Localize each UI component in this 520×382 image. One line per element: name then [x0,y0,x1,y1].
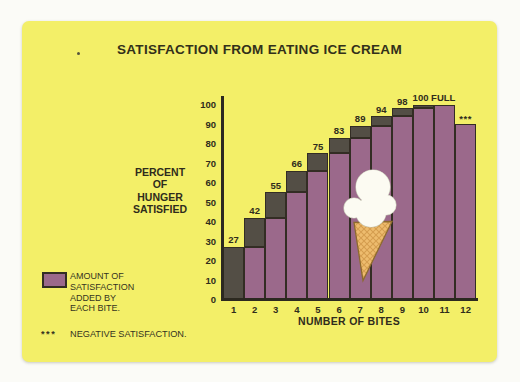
bar-column-10-increment [413,105,434,109]
slide-stage: SATISFACTION FROM EATING ICE CREAM PERCE… [0,0,520,382]
y-tick-label-0: 0 [172,293,216,306]
y-tick-label-100: 100 [172,98,216,111]
bar-column-4-purple [286,192,307,299]
y-tick-label-70: 70 [172,157,216,170]
x-tick-label-4: 4 [286,304,307,316]
y-tick-label-80: 80 [172,137,216,150]
bar-column-1-increment [223,247,244,300]
x-axis-line [221,298,478,301]
bar-column-2-increment [244,218,265,247]
x-tick-label-8: 8 [371,304,392,316]
bar-value-label-12: *** [431,112,501,125]
chart-title: SATISFACTION FROM EATING ICE CREAM [22,42,497,57]
x-tick-label-12: 12 [455,304,476,316]
bar-column-3-purple [265,218,286,300]
x-axis-title: NUMBER OF BITES [249,315,449,327]
bar-column-7-increment [350,126,371,138]
bar-column-8-increment [371,116,392,126]
y-tick-label-20: 20 [172,254,216,267]
legend-label-line: EACH BITE. [70,303,134,314]
asterisks-icon: *** [41,329,70,339]
bar-column-2-purple [244,247,265,300]
x-tick-label-6: 6 [329,304,350,316]
y-tick-label-90: 90 [172,118,216,131]
legend-label-line: AMOUNT OF [70,271,134,282]
x-tick-label-9: 9 [392,304,413,316]
bar-column-3-increment [265,192,286,217]
y-axis-line [221,96,224,301]
negative-satisfaction-footnote: *** NEGATIVE SATISFACTION. [41,329,187,339]
x-tick-label-10: 10 [413,304,434,316]
y-tick-label-50: 50 [172,196,216,209]
bar-column-10-purple [413,108,434,299]
bar-column-6-increment [329,138,350,154]
x-tick-label-11: 11 [434,304,455,316]
bar-column-5-purple [307,171,328,300]
bar-value-label-10: 100 FULL [399,91,469,104]
legend-label-line: SATISFACTION [70,282,134,293]
x-tick-label-3: 3 [265,304,286,316]
ice-cream-scoop-icon [344,170,396,227]
legend-label-line: ADDED BY [70,293,134,304]
bar-column-11-purple [434,105,455,300]
bar-column-5-increment [307,153,328,171]
y-tick-label-40: 40 [172,215,216,228]
ice-cream-cone-illustration [340,163,398,285]
legend-label: AMOUNT OF SATISFACTION ADDED BY EACH BIT… [70,271,134,314]
x-tick-label-1: 1 [223,304,244,316]
bar-column-9-increment [392,108,413,116]
x-tick-label-5: 5 [307,304,328,316]
bar-column-12-purple [455,124,476,300]
stray-dot-mark [77,52,80,55]
y-tick-label-10: 10 [172,274,216,287]
x-tick-label-2: 2 [244,304,265,316]
bar-column-4-increment [286,171,307,192]
y-tick-label-60: 60 [172,176,216,189]
legend-color-swatch [42,272,67,288]
x-tick-label-7: 7 [350,304,371,316]
footnote-text: NEGATIVE SATISFACTION. [70,329,187,339]
cone-icon [354,222,392,281]
